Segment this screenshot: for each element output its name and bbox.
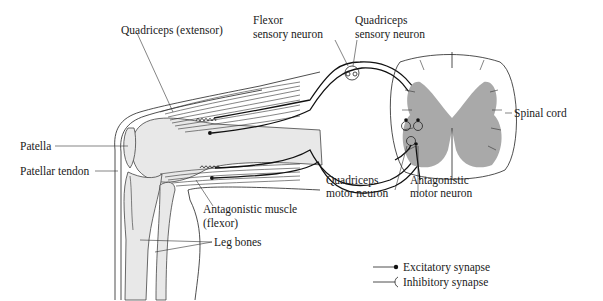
svg-text:Excitatory synapse: Excitatory synapse bbox=[403, 261, 490, 274]
dorsal-root-ganglion bbox=[345, 66, 359, 80]
label-antagonistic-muscle-2: (flexor) bbox=[203, 217, 238, 230]
quadriceps-spindle bbox=[196, 119, 216, 122]
quadriceps-endplate bbox=[208, 131, 212, 135]
label-patellar-tendon: Patellar tendon bbox=[20, 165, 90, 177]
label-patella: Patella bbox=[20, 140, 51, 152]
label-antagonistic-muscle-1: Antagonistic muscle bbox=[203, 203, 297, 216]
legend-inhibitory: Inhibitory synapse bbox=[373, 276, 488, 289]
legend-excitatory: Excitatory synapse bbox=[373, 261, 490, 274]
legend: Excitatory synapse Inhibitory synapse bbox=[373, 261, 490, 289]
reflex-diagram: Quadriceps (extensor) Flexor sensory neu… bbox=[0, 0, 603, 301]
label-quadriceps-sensory-2: sensory neuron bbox=[355, 28, 425, 41]
label-quadriceps-sensory-1: Quadriceps bbox=[355, 14, 408, 27]
label-antagonistic-motor-1: Antagonistic bbox=[410, 174, 469, 187]
label-flexor-sensory-2: sensory neuron bbox=[253, 28, 323, 41]
label-flexor-sensory-1: Flexor bbox=[253, 14, 283, 26]
label-quadriceps-motor-2: motor neuron bbox=[326, 187, 389, 199]
excitatory-synapse-icon bbox=[394, 265, 398, 269]
label-quadriceps-extensor: Quadriceps (extensor) bbox=[121, 24, 223, 37]
label-leg-bones: Leg bones bbox=[214, 236, 262, 249]
svg-text:Inhibitory synapse: Inhibitory synapse bbox=[403, 276, 488, 289]
flexor-endplate bbox=[210, 176, 214, 180]
leg-illustration bbox=[115, 72, 322, 300]
spinal-cord bbox=[390, 52, 516, 180]
label-antagonistic-motor-2: motor neuron bbox=[410, 187, 473, 199]
label-quadriceps-motor-1: Quadriceps bbox=[326, 174, 379, 187]
label-spinal-cord: Spinal cord bbox=[514, 107, 567, 120]
inhibitory-synapse-icon bbox=[395, 277, 398, 287]
